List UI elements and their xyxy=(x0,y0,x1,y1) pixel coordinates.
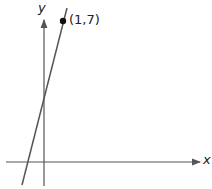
x-axis-label: x xyxy=(203,152,211,167)
y-axis-label: y xyxy=(38,0,46,15)
coordinate-plane xyxy=(0,0,212,189)
point-marker xyxy=(60,18,66,24)
point-label: (1,7) xyxy=(69,12,100,27)
